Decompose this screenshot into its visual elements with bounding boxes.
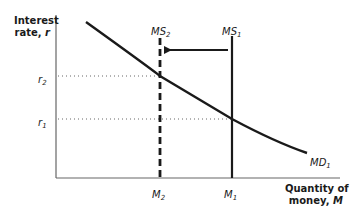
y-axis-title-line1: Interest [14, 15, 50, 27]
x-axis-title: Quantity of money, M [285, 183, 343, 207]
y-axis-title: Interest rate, r [14, 15, 50, 39]
md-curve [86, 22, 307, 153]
money-market-diagram [0, 0, 355, 213]
ms2-label: MS2 [151, 20, 170, 39]
y-axis-var: r [45, 27, 50, 38]
tick-m1: M1 [224, 183, 237, 202]
y-axis-title-line2: rate, [15, 27, 46, 38]
md-label: MD1 [310, 151, 331, 170]
tick-r1: r1 [38, 111, 47, 130]
x-axis-var: M [333, 195, 343, 206]
x-axis-title-line1: Quantity of [285, 183, 343, 195]
tick-m2: M2 [152, 183, 165, 202]
x-axis-title-line2: money, [289, 195, 333, 206]
ms1-label: MS1 [222, 20, 241, 39]
tick-r2: r2 [38, 68, 47, 87]
